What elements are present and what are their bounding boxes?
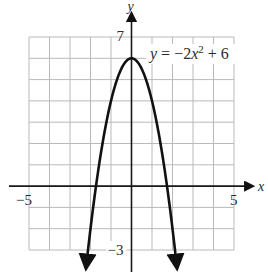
equation-label: y = −2x2 + 6	[146, 43, 244, 64]
y-axis-label: y	[126, 0, 135, 14]
y-tick-label: −3	[108, 242, 124, 258]
equation-text: y = −2x2 + 6	[148, 43, 229, 63]
parabola-chart: yx7−3−55 y = −2x2 + 6	[0, 0, 268, 273]
x-tick-label: −5	[16, 192, 32, 208]
y-tick-label: 7	[117, 28, 125, 44]
x-axis-label: x	[257, 179, 265, 194]
x-tick-label: 5	[230, 192, 238, 208]
axis-labels: yx7−3−55	[16, 0, 265, 258]
